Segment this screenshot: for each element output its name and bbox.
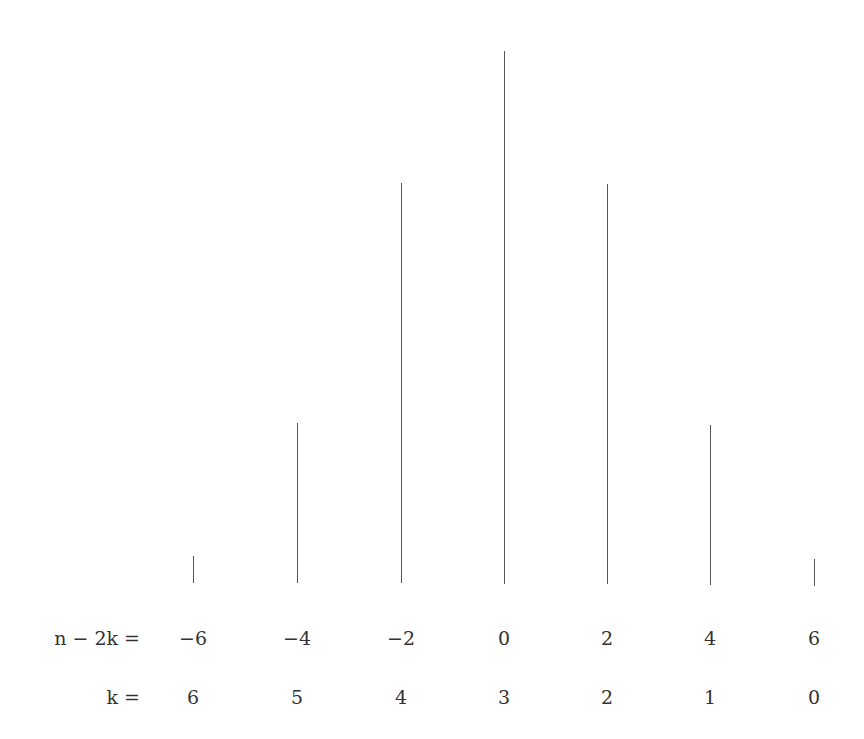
tick-label-k: 0 — [784, 686, 844, 708]
stem-bar — [710, 425, 711, 585]
tick-label-n-minus-2k: 0 — [474, 627, 534, 649]
stem-bar — [814, 559, 815, 586]
tick-label-k: 4 — [371, 686, 431, 708]
stem-bar — [401, 183, 402, 583]
tick-label-k: 3 — [474, 686, 534, 708]
tick-label-n-minus-2k: 2 — [577, 627, 637, 649]
tick-label-k: 6 — [163, 686, 223, 708]
row-label-n-minus-2k: n − 2k = — [0, 627, 140, 649]
stem-bar — [504, 51, 505, 584]
stem-bar — [193, 556, 194, 583]
tick-label-k: 5 — [267, 686, 327, 708]
tick-label-k: 1 — [680, 686, 740, 708]
tick-label-n-minus-2k: −4 — [267, 627, 327, 649]
tick-label-n-minus-2k: −6 — [163, 627, 223, 649]
stem-bar — [297, 423, 298, 583]
tick-label-k: 2 — [577, 686, 637, 708]
tick-label-n-minus-2k: 6 — [784, 627, 844, 649]
tick-label-n-minus-2k: −2 — [371, 627, 431, 649]
tick-label-n-minus-2k: 4 — [680, 627, 740, 649]
stem-bar — [607, 184, 608, 584]
row-label-k: k = — [0, 686, 140, 708]
